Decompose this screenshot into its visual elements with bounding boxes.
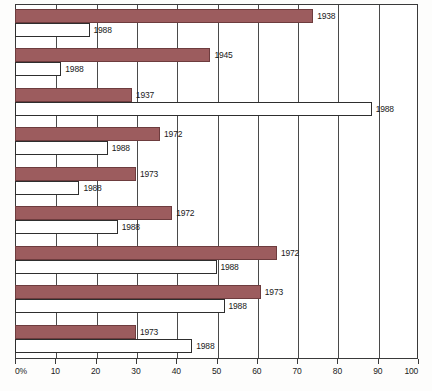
bar-1988-current bbox=[15, 339, 192, 353]
bar-1988-current bbox=[15, 260, 217, 274]
bar-value-label: 1973 bbox=[265, 285, 283, 299]
x-tick-50 bbox=[217, 359, 218, 364]
bar-value-label: 1973 bbox=[140, 167, 158, 181]
x-tick-100 bbox=[418, 359, 419, 364]
bar-1988-current bbox=[15, 102, 372, 116]
bar-value-label: 1973 bbox=[140, 325, 158, 339]
bar-value-label: 1972 bbox=[281, 246, 299, 260]
x-tick-10 bbox=[55, 359, 56, 364]
bar-1972-historical bbox=[15, 246, 277, 260]
bar-value-label: 1988 bbox=[94, 23, 112, 37]
bar-group: 19731988 bbox=[15, 162, 418, 201]
bar-1988-current bbox=[15, 23, 90, 37]
bar-value-label: 1988 bbox=[122, 220, 140, 234]
x-tick-label-40: 40 bbox=[172, 366, 181, 376]
x-tick-40 bbox=[176, 359, 177, 364]
x-tick-label-90: 90 bbox=[373, 366, 382, 376]
bar-value-label: 1945 bbox=[214, 48, 232, 62]
bar-1972-historical bbox=[15, 206, 172, 220]
x-tick-label-0: 0% bbox=[15, 366, 27, 376]
x-tick-label-60: 60 bbox=[252, 366, 261, 376]
x-tick-label-30: 30 bbox=[131, 366, 140, 376]
bar-group: 19721988 bbox=[15, 201, 418, 240]
bar-value-label: 1938 bbox=[317, 9, 335, 23]
x-tick-label-10: 10 bbox=[51, 366, 60, 376]
bar-1973-historical bbox=[15, 325, 136, 339]
x-tick-label-50: 50 bbox=[212, 366, 221, 376]
x-tick-label-100: 100 bbox=[404, 366, 418, 376]
x-tick-60 bbox=[257, 359, 258, 364]
bar-1988-current bbox=[15, 220, 118, 234]
x-tick-label-20: 20 bbox=[91, 366, 100, 376]
bar-value-label: 1988 bbox=[65, 62, 83, 76]
bar-1988-current bbox=[15, 62, 61, 76]
bar-value-label: 1972 bbox=[176, 206, 194, 220]
bar-value-label: 1988 bbox=[229, 299, 247, 313]
bar-value-label: 1988 bbox=[376, 102, 394, 116]
x-tick-label-80: 80 bbox=[333, 366, 342, 376]
x-tick-30 bbox=[136, 359, 137, 364]
x-tick-label-70: 70 bbox=[293, 366, 302, 376]
bar-value-label: 1988 bbox=[112, 141, 130, 155]
x-axis bbox=[15, 359, 418, 365]
bar-1973-historical bbox=[15, 285, 261, 299]
bar-1988-current bbox=[15, 181, 79, 195]
x-tick-90 bbox=[378, 359, 379, 364]
bar-1973-historical bbox=[15, 167, 136, 181]
bar-value-label: 1937 bbox=[136, 88, 154, 102]
bar-group: 19731988 bbox=[15, 320, 418, 359]
bar-value-label: 1988 bbox=[196, 339, 214, 353]
bar-1938-historical bbox=[15, 9, 313, 23]
x-tick-20 bbox=[96, 359, 97, 364]
x-tick-70 bbox=[297, 359, 298, 364]
bar-value-label: 1988 bbox=[83, 181, 101, 195]
bar-value-label: 1988 bbox=[221, 260, 239, 274]
bar-1988-current bbox=[15, 299, 225, 313]
bar-1945-historical bbox=[15, 48, 210, 62]
bar-value-label: 1972 bbox=[164, 127, 182, 141]
bars-layer: 1938198819451988193719881972198819731988… bbox=[15, 4, 418, 359]
bar-group: 19721988 bbox=[15, 241, 418, 280]
bar-1972-historical bbox=[15, 127, 160, 141]
bar-group: 19381988 bbox=[15, 4, 418, 43]
bar-group: 19451988 bbox=[15, 43, 418, 82]
bar-1937-historical bbox=[15, 88, 132, 102]
bar-group: 19731988 bbox=[15, 280, 418, 319]
bar-1988-current bbox=[15, 141, 108, 155]
x-tick-0 bbox=[15, 359, 16, 364]
x-tick-80 bbox=[337, 359, 338, 364]
bar-chart: 1938198819451988193719881972198819731988… bbox=[0, 0, 432, 391]
bar-group: 19371988 bbox=[15, 83, 418, 122]
bar-group: 19721988 bbox=[15, 122, 418, 161]
